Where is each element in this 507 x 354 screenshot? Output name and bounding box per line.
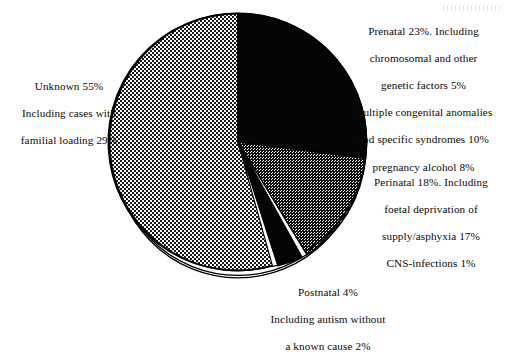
postnatal-callout-line-2: Including autism without — [249, 313, 407, 327]
pie-slices — [108, 13, 366, 270]
perinatal-callout: Perinatal 18%. Including foetal deprivat… — [356, 162, 506, 284]
postnatal-callout: Postnatal 4% Including autism without a … — [249, 272, 407, 354]
perinatal-callout-line-4: CNS-infections 1% — [356, 257, 506, 271]
prenatal-callout-line-1: Prenatal 23%. Including — [340, 25, 507, 39]
prenatal-callout-line-4: multiple congenital anomalies — [340, 106, 507, 120]
prenatal-callout-line-2: chromosomal and other — [340, 52, 507, 66]
perinatal-callout-line-2: foetal deprivation of — [356, 203, 506, 217]
perinatal-callout-line-1: Perinatal 18%. Including — [356, 176, 506, 190]
postnatal-callout-line-3: a known cause 2% — [249, 340, 407, 354]
unknown-callout-line-3: familial loading 29% — [2, 134, 136, 148]
prenatal-callout-line-5: and specific syndromes 10% — [340, 133, 507, 147]
unknown-callout: Unknown 55% Including cases with familia… — [2, 66, 136, 161]
perinatal-callout-line-3: supply/asphyxia 17% — [356, 230, 506, 244]
prenatal-callout-line-3: genetic factors 5% — [340, 79, 507, 93]
unknown-callout-line-2: Including cases with — [2, 107, 136, 121]
unknown-callout-line-1: Unknown 55% — [2, 80, 136, 94]
postnatal-callout-line-1: Postnatal 4% — [249, 286, 407, 300]
